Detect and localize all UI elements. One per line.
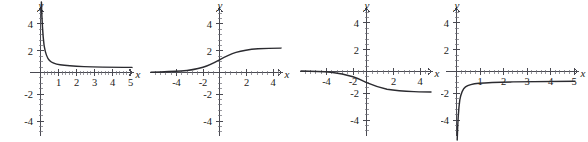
four-plot-figure: 1 2 3 4 5 4 2 -2 -4 x y xyxy=(0,0,588,142)
y-tick-label: 2 xyxy=(207,46,212,57)
x-tick-label: 3 xyxy=(92,77,97,88)
x-tick-label: 4 xyxy=(270,77,276,88)
y-tick-label: -4 xyxy=(350,115,359,126)
y-tick-label: 2 xyxy=(444,45,449,56)
y-tick-label: 4 xyxy=(207,19,213,30)
x-tick-label: -4 xyxy=(322,76,331,87)
x-tick-label: -4 xyxy=(172,77,181,88)
y-tick-label: 4 xyxy=(28,19,34,30)
y-axis-label-2: y xyxy=(217,0,223,11)
x-axis-label-2: x xyxy=(284,68,290,80)
x-tick-label: 5 xyxy=(128,77,133,88)
y-tick-label: -4 xyxy=(24,116,33,127)
x-tick-label: 1 xyxy=(477,76,482,87)
curve-2 xyxy=(151,48,281,72)
y-tick-label: -4 xyxy=(203,116,212,127)
y-tick-label: -2 xyxy=(441,88,449,99)
x-tick-label: 4 xyxy=(110,77,116,88)
plot-canvas-3: -4 -2 2 4 4 2 -2 -4 x y xyxy=(294,0,441,142)
x-tick-label: 2 xyxy=(244,77,249,88)
x-axis-label-3: x xyxy=(434,67,440,79)
y-tick-label: -2 xyxy=(350,88,359,99)
curve-1 xyxy=(41,2,132,67)
plot-canvas-2: -4 -2 2 4 4 2 -2 -4 x y xyxy=(147,0,294,142)
axes-group-1 xyxy=(30,8,133,136)
plot-canvas-4: 1 2 3 4 5 4 2 -2 -4 x y xyxy=(441,0,588,142)
x-axis-label-4: x xyxy=(580,67,586,79)
y-tick-label: 2 xyxy=(354,45,359,56)
plot-canvas-1: 1 2 3 4 5 4 2 -2 -4 x y xyxy=(0,0,147,142)
x-tick-label: 4 xyxy=(417,76,423,87)
y-axis-label-1: y xyxy=(38,0,44,11)
x-tick-label: -2 xyxy=(199,77,208,88)
plot-panel-2: -4 -2 2 4 4 2 -2 -4 x y xyxy=(147,0,294,142)
plot-panel-1: 1 2 3 4 5 4 2 -2 -4 x y xyxy=(0,0,147,142)
y-tick-label: 4 xyxy=(444,18,450,29)
curve-4 xyxy=(457,81,575,140)
y-tick-label: -2 xyxy=(203,89,212,100)
x-tick-labels-2: -4 -2 2 4 xyxy=(172,77,276,88)
x-tick-label: 2 xyxy=(391,76,396,87)
x-tick-labels-1: 1 2 3 4 5 xyxy=(56,77,133,88)
y-axis-label-4: y xyxy=(454,0,460,11)
y-tick-label: -4 xyxy=(441,115,450,126)
x-tick-label: 1 xyxy=(56,77,61,88)
y-tick-label: 4 xyxy=(354,18,360,29)
x-axis-label-1: x xyxy=(135,68,141,80)
y-axis-label-3: y xyxy=(364,0,370,11)
x-tick-label: 2 xyxy=(74,77,79,88)
y-tick-label: -2 xyxy=(24,89,33,100)
y-tick-label: 2 xyxy=(28,46,33,57)
plot-panel-3: -4 -2 2 4 4 2 -2 -4 x y xyxy=(294,0,441,142)
plot-panel-4: 1 2 3 4 5 4 2 -2 -4 x y xyxy=(441,0,588,142)
